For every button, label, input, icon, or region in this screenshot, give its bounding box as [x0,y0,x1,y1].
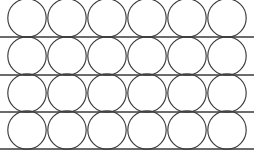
figure-canvas [0,0,254,160]
circle-lattice-svg [0,0,254,160]
figure-background [0,0,254,160]
